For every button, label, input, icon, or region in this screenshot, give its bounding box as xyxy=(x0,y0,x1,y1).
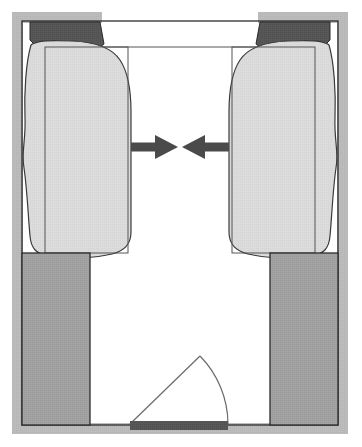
floor-plan-canvas xyxy=(0,0,362,447)
cushion-left xyxy=(23,40,131,257)
furniture-left xyxy=(23,22,131,258)
cabinet-left xyxy=(22,253,90,425)
furniture-right xyxy=(229,22,337,258)
cushion-right xyxy=(229,40,337,257)
floor-plan-diagram: Room floor plan with paired furniture an… xyxy=(0,0,362,447)
door-threshold xyxy=(130,421,228,430)
cabinet-right xyxy=(270,253,338,425)
